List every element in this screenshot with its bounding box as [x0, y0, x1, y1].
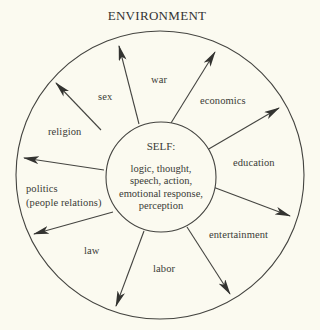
self-title: SELF: — [106, 140, 216, 153]
label-war: war — [151, 74, 167, 86]
self-faculty-line: emotional response, — [106, 188, 216, 201]
label-entertainment: entertainment — [209, 229, 268, 241]
label-religion: religion — [48, 126, 81, 138]
label-law: law — [84, 245, 99, 257]
arrow — [171, 52, 215, 123]
self-faculty-line: speech, action, — [106, 175, 216, 188]
self-faculty-line: logic, thought, — [106, 163, 216, 176]
arrow — [24, 158, 104, 170]
arrow — [119, 46, 139, 124]
label-politics: politics — [26, 183, 58, 195]
arrow — [207, 108, 279, 150]
label-economics: economics — [200, 95, 246, 107]
label-labor: labor — [153, 263, 175, 275]
label-politics-subtitle: (people relations) — [26, 197, 102, 209]
self-faculty-line: perception — [106, 200, 216, 213]
label-education: education — [233, 157, 275, 169]
label-sex: sex — [98, 91, 112, 103]
arrow — [34, 212, 113, 234]
arrow — [213, 187, 290, 216]
self-text-block: SELF: logic, thought, speech, action, em… — [106, 140, 216, 213]
arrow — [56, 83, 101, 130]
arrow — [116, 231, 144, 306]
